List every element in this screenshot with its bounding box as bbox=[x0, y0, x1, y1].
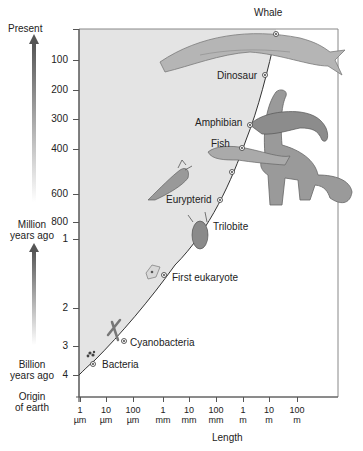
x-tick bbox=[243, 397, 244, 402]
y-label-400: 400 bbox=[28, 144, 68, 154]
origin-of-earth-label: Origin of earth bbox=[6, 391, 58, 413]
y-label-present: Present bbox=[8, 24, 68, 34]
y-label-300: 300 bbox=[28, 114, 68, 124]
x-label-100m: 100m bbox=[282, 405, 312, 425]
billion-years-ago-label: Billion years ago bbox=[6, 359, 58, 381]
y-label-200: 200 bbox=[28, 85, 68, 95]
y-label-3-billion: 3 bbox=[28, 341, 68, 351]
label-bacteria: Bacteria bbox=[102, 360, 139, 370]
y-tick bbox=[73, 90, 79, 91]
x-tick bbox=[163, 397, 164, 402]
label-cyanobacteria: Cyanobacteria bbox=[130, 338, 194, 348]
y-tick bbox=[73, 60, 79, 61]
x-tick bbox=[80, 397, 81, 402]
y-tick bbox=[73, 346, 79, 347]
y-label-100: 100 bbox=[28, 55, 68, 65]
y-tick bbox=[73, 308, 79, 309]
label-trilobite: Trilobite bbox=[213, 222, 248, 232]
label-amphibian: Amphibian bbox=[195, 118, 242, 128]
x-tick bbox=[216, 397, 217, 402]
y-tick bbox=[73, 222, 79, 223]
y-tick bbox=[73, 149, 79, 150]
x-tick bbox=[297, 397, 298, 402]
x-label-100um: 100µm bbox=[118, 405, 148, 425]
y-tick bbox=[73, 194, 79, 195]
x-tick bbox=[133, 397, 134, 402]
x-label-10um: 10µm bbox=[91, 405, 121, 425]
y-tick bbox=[73, 239, 79, 240]
x-tick bbox=[269, 397, 270, 402]
billion-years-arrow bbox=[29, 243, 39, 345]
y-label-2-billion: 2 bbox=[28, 303, 68, 313]
label-dinosaur: Dinosaur bbox=[217, 71, 257, 81]
label-eurypterid: Eurypterid bbox=[166, 195, 212, 205]
x-label-100mm: 100mm bbox=[201, 405, 231, 425]
y-label-600: 600 bbox=[28, 189, 68, 199]
x-axis-title: Length bbox=[212, 432, 243, 443]
label-first-eukaryote: First eukaryote bbox=[172, 273, 238, 283]
x-label-10mm: 10mm bbox=[174, 405, 204, 425]
x-label-10m: 10m bbox=[254, 405, 284, 425]
label-fish: Fish bbox=[211, 139, 230, 149]
y-tick bbox=[73, 29, 79, 30]
million-years-ago-label: Million years ago bbox=[6, 219, 58, 241]
x-tick bbox=[189, 397, 190, 402]
label-whale: Whale bbox=[254, 8, 282, 18]
y-tick bbox=[73, 119, 79, 120]
x-tick bbox=[106, 397, 107, 402]
amphibian-illustration bbox=[250, 112, 328, 142]
y-tick bbox=[73, 375, 79, 376]
